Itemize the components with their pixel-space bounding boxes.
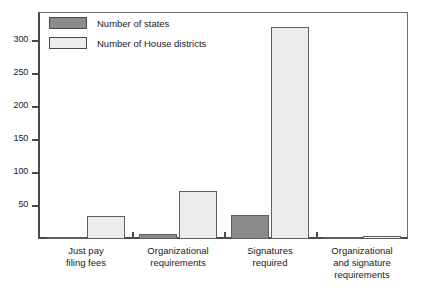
y-tick-label: 100 (14, 166, 28, 176)
legend-label: Number of House districts (97, 38, 206, 49)
y-axis: 300 250 200 150 100 50 (0, 0, 38, 297)
x-axis-label-line: requirements (316, 269, 408, 281)
bar-house-districts (87, 216, 125, 239)
x-axis-tick-mark (316, 232, 318, 239)
y-tick-label: 300 (14, 34, 28, 44)
x-axis-labels: Just payfiling feesOrganizationalrequire… (40, 245, 408, 297)
x-axis-label-line: Organizational (316, 245, 408, 257)
bar-states (139, 234, 177, 239)
x-axis-tick-mark (132, 232, 134, 239)
x-axis-label-line: and signature (316, 257, 408, 269)
y-tick-label: 250 (14, 67, 28, 77)
x-axis-label-line: Just pay (40, 245, 132, 257)
bar-chart: 300 250 200 150 100 50 Just payfiling fe… (0, 0, 422, 297)
y-tick-label: 150 (14, 133, 28, 143)
legend-swatch-icon (49, 37, 87, 49)
x-axis-label-line: required (224, 257, 316, 269)
x-axis-label-line: Organizational (132, 245, 224, 257)
legend-label: Number of states (97, 18, 169, 29)
y-tick-mark (32, 172, 38, 174)
chart-legend: Number of states Number of House distric… (49, 15, 279, 55)
x-axis-label-line: filing fees (40, 257, 132, 269)
y-tick-label: 50 (18, 199, 28, 209)
y-tick-mark (32, 40, 38, 42)
y-tick-label: 200 (14, 100, 28, 110)
x-axis-tick-mark (224, 232, 226, 239)
y-tick-mark (32, 73, 38, 75)
x-axis-label: Just payfiling fees (40, 245, 132, 269)
y-tick-mark (32, 205, 38, 207)
y-tick-mark (32, 139, 38, 141)
bar-states (47, 237, 85, 239)
x-axis-label-line: Signatures (224, 245, 316, 257)
x-axis-label: Organizationaland signaturerequirements (316, 245, 408, 281)
x-axis-label: Signaturesrequired (224, 245, 316, 269)
legend-swatch-icon (49, 17, 87, 29)
y-tick-mark (32, 106, 38, 108)
bar-states (323, 237, 361, 239)
legend-item-districts: Number of House districts (49, 35, 279, 51)
legend-item-states: Number of states (49, 15, 279, 31)
x-axis-label: Organizationalrequirements (132, 245, 224, 269)
bar-house-districts (271, 27, 309, 239)
bar-house-districts (179, 191, 217, 239)
x-axis-label-line: requirements (132, 257, 224, 269)
bar-states (231, 215, 269, 239)
bar-group (316, 12, 408, 239)
bar-house-districts (363, 236, 401, 239)
